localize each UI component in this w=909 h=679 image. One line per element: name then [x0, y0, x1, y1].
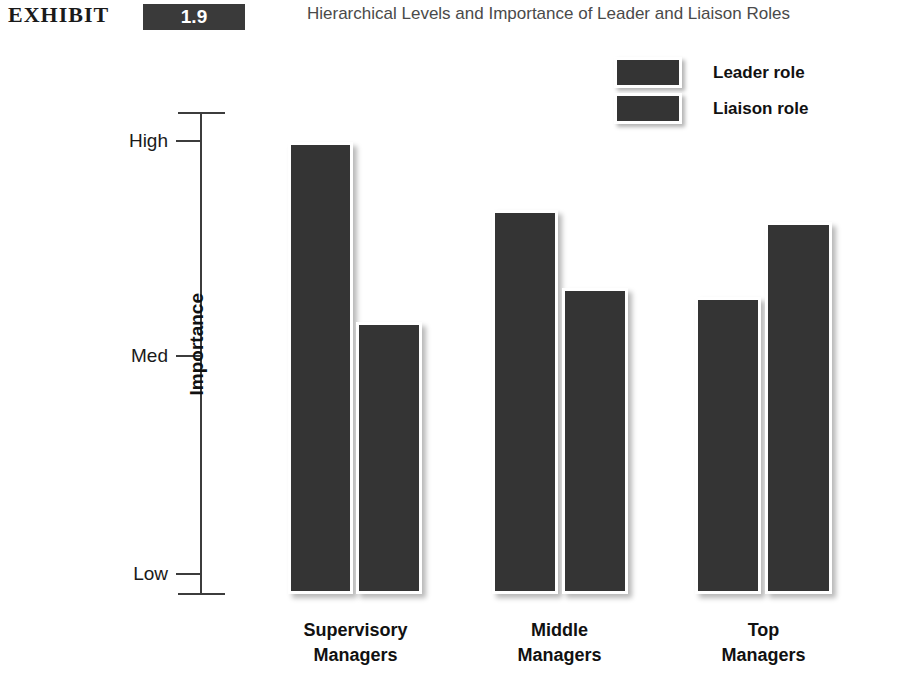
y-axis-title: Importance [186, 293, 208, 395]
bar-supervisory-liaison [356, 322, 422, 594]
category-label-line-2: Managers [472, 643, 647, 668]
category-label-middle-managers: Middle Managers [472, 618, 647, 668]
bar-top-liaison [765, 222, 832, 594]
exhibit-figure: EXHIBIT 1.9 Hierarchical Levels and Impo… [0, 0, 909, 679]
category-label-supervisory-managers: Supervisory Managers [268, 618, 443, 668]
category-label-line-2: Managers [676, 643, 851, 668]
y-tick-label-low-wrap: Low [60, 563, 168, 583]
y-tick-label-low: Low [133, 563, 168, 585]
y-axis-cap-top [178, 112, 225, 114]
category-label-line-2: Managers [268, 643, 443, 668]
y-tick-mark-high [176, 140, 202, 142]
category-label-line-1: Supervisory [268, 618, 443, 643]
y-tick-label-med: Med [131, 345, 168, 367]
y-tick-label-med-wrap: Med [60, 345, 168, 365]
plot-area: High Med Low Importance Supervisory Mana… [0, 0, 909, 679]
y-tick-mark-low [176, 573, 202, 575]
bar-middle-leader [492, 210, 558, 594]
y-tick-label-high-wrap: High [60, 130, 168, 150]
bar-middle-liaison [562, 288, 628, 594]
y-tick-label-high: High [129, 130, 168, 152]
category-label-line-1: Top [676, 618, 851, 643]
y-axis-cap-bottom [178, 593, 225, 595]
bar-supervisory-leader [288, 142, 353, 594]
category-label-top-managers: Top Managers [676, 618, 851, 668]
bar-top-leader [695, 297, 761, 594]
category-label-line-1: Middle [472, 618, 647, 643]
